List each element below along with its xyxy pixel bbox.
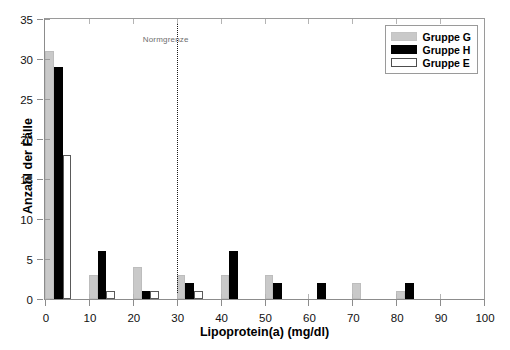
x-tick-top <box>221 19 222 24</box>
bar-20to30-gruppe-g <box>133 267 142 299</box>
y-tick-inner <box>45 59 50 60</box>
y-tick-label: 0 <box>27 294 33 306</box>
x-tick-inner <box>89 294 90 299</box>
legend: Gruppe GGruppe HGruppe E <box>385 25 478 74</box>
y-tick-inner <box>45 99 50 100</box>
x-tick-inner <box>352 294 353 299</box>
bar-0to10-gruppe-g <box>45 51 54 299</box>
bar-20to30-gruppe-e <box>150 291 159 299</box>
legend-swatch-icon <box>391 58 417 67</box>
x-axis-label: Lipoprotein(a) (mg/dl) <box>44 325 485 339</box>
y-tick: 0 <box>37 299 43 300</box>
y-tick: 5 <box>37 259 43 260</box>
y-tick-label: 30 <box>20 54 33 66</box>
legend-item-gruppe-e: Gruppe E <box>391 56 471 69</box>
x-tick-label: 80 <box>391 312 404 324</box>
x-tick: 30 <box>177 300 178 306</box>
x-tick-inner <box>265 294 266 299</box>
bar-70to80-gruppe-g <box>352 283 361 299</box>
x-tick-top <box>177 19 178 24</box>
x-tick-label: 30 <box>171 312 184 324</box>
x-tick-inner <box>221 294 222 299</box>
x-tick: 60 <box>308 300 309 306</box>
legend-item-gruppe-g: Gruppe G <box>391 30 471 43</box>
bar-30to40-gruppe-h <box>185 283 194 299</box>
x-tick: 10 <box>89 300 90 306</box>
y-axis-label: Anzahl der Fälle <box>21 76 35 256</box>
bar-30to40-gruppe-e <box>194 291 203 299</box>
plot-area: Normgrenze 05101520253035 01020304050607… <box>44 18 485 300</box>
legend-label: Gruppe G <box>423 31 471 43</box>
y-tick-label: 35 <box>20 14 33 26</box>
x-tick-inner <box>308 294 309 299</box>
x-tick-top <box>133 19 134 24</box>
x-tick-label: 20 <box>127 312 140 324</box>
y-tick-inner <box>45 19 50 20</box>
normgrenze-label: Normgrenze <box>143 35 189 44</box>
y-tick-inner <box>45 139 50 140</box>
y-tick: 20 <box>37 139 43 140</box>
bar-40to50-gruppe-h <box>229 251 238 299</box>
y-tick: 25 <box>37 99 43 100</box>
bar-40to50-gruppe-g <box>221 275 230 299</box>
x-tick: 80 <box>396 300 397 306</box>
x-tick: 70 <box>352 300 353 306</box>
y-tick: 15 <box>37 179 43 180</box>
x-tick-label: 100 <box>475 312 494 324</box>
x-tick-label: 10 <box>83 312 96 324</box>
bar-50to60-gruppe-h <box>273 283 282 299</box>
x-tick-inner <box>133 294 134 299</box>
bar-10to20-gruppe-g <box>89 275 98 299</box>
bar-50to60-gruppe-g <box>265 275 274 299</box>
y-tick-inner <box>45 179 50 180</box>
x-tick-label: 40 <box>215 312 228 324</box>
bar-30to40-gruppe-g <box>177 275 186 299</box>
x-tick-label: 60 <box>303 312 316 324</box>
bar-10to20-gruppe-h <box>98 251 107 299</box>
bar-10to20-gruppe-e <box>106 291 115 299</box>
x-tick-label: 50 <box>259 312 272 324</box>
x-tick-label: 70 <box>347 312 360 324</box>
x-tick: 20 <box>133 300 134 306</box>
legend-label: Gruppe E <box>423 57 470 69</box>
x-tick: 40 <box>221 300 222 306</box>
bar-80to90-gruppe-h <box>405 283 414 299</box>
x-tick-inner <box>396 294 397 299</box>
bar-0to10-gruppe-e <box>63 155 72 299</box>
x-tick-label: 90 <box>435 312 448 324</box>
y-tick-inner <box>45 219 50 220</box>
x-tick: 100 <box>484 300 485 306</box>
legend-label: Gruppe H <box>423 44 471 56</box>
x-tick-top <box>352 19 353 24</box>
y-tick: 35 <box>37 19 43 20</box>
histogram-figure: Normgrenze 05101520253035 01020304050607… <box>0 0 510 350</box>
x-tick-top <box>396 19 397 24</box>
x-tick-top <box>265 19 266 24</box>
normgrenze-line <box>177 19 178 299</box>
y-tick: 30 <box>37 59 43 60</box>
x-tick-inner <box>440 294 441 299</box>
x-tick: 0 <box>45 300 46 306</box>
x-tick: 90 <box>440 300 441 306</box>
bar-80to90-gruppe-g <box>396 291 405 299</box>
bar-60to70-gruppe-h <box>317 283 326 299</box>
legend-swatch-icon <box>391 45 417 54</box>
x-tick-label: 0 <box>43 312 49 324</box>
x-tick-inner <box>177 294 178 299</box>
legend-item-gruppe-h: Gruppe H <box>391 43 471 56</box>
legend-swatch-icon <box>391 32 417 41</box>
x-tick-top <box>308 19 309 24</box>
x-tick-top <box>89 19 90 24</box>
y-tick-inner <box>45 259 50 260</box>
y-tick: 10 <box>37 219 43 220</box>
bar-20to30-gruppe-h <box>142 291 151 299</box>
bar-0to10-gruppe-h <box>54 67 63 299</box>
x-tick-top <box>440 19 441 24</box>
x-tick: 50 <box>265 300 266 306</box>
